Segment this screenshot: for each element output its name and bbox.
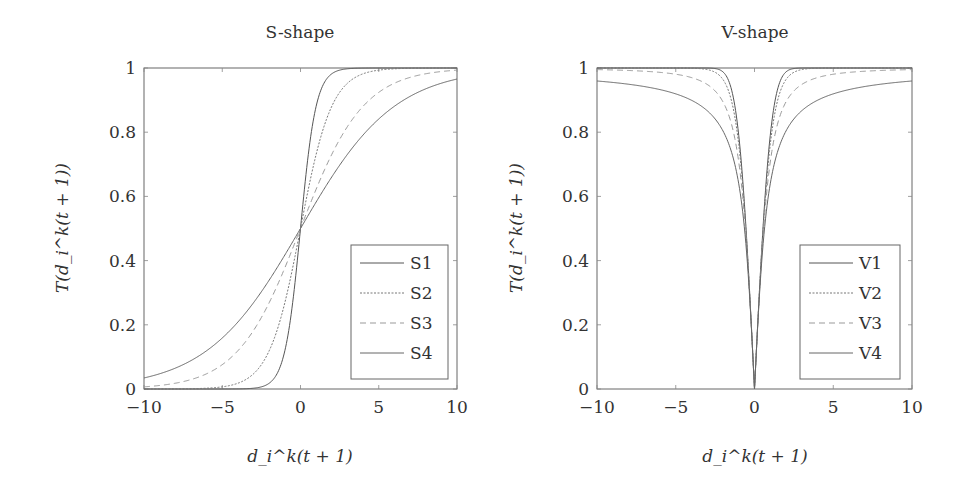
x-tick-label: 5 bbox=[828, 397, 839, 417]
svg-text:T(d_i^k(t + 1)): T(d_i^k(t + 1)) bbox=[506, 163, 526, 293]
y-tick-label: 0 bbox=[125, 379, 136, 399]
y-tick-label: 0.8 bbox=[562, 122, 589, 142]
x-tick-label: −5 bbox=[663, 397, 688, 417]
x-tick-label: 0 bbox=[295, 397, 306, 417]
s-legend: S1S2S3S4 bbox=[351, 245, 448, 379]
y-tick-label: 0.8 bbox=[109, 122, 136, 142]
legend-label-v4: V4 bbox=[858, 343, 882, 363]
y-tick-label: 0.6 bbox=[109, 186, 136, 206]
v-y-axis-label: T(d_i^k(t + 1)) bbox=[506, 163, 526, 293]
v-legend: V1V2V3V4 bbox=[800, 245, 900, 379]
s-y-axis-label: T(d_i^k(t + 1)) bbox=[52, 163, 72, 293]
v-shape-title: V-shape bbox=[720, 22, 788, 42]
x-tick-label: −10 bbox=[126, 397, 162, 417]
y-tick-label: 0.6 bbox=[562, 186, 589, 206]
s-shape-title: S-shape bbox=[266, 22, 335, 42]
figure-svg: S-shape −10−5051000.20.40.60.81 T(d_i^k(… bbox=[0, 0, 963, 487]
x-tick-label: −10 bbox=[579, 397, 615, 417]
s-shape-panel: S-shape −10−5051000.20.40.60.81 T(d_i^k(… bbox=[52, 22, 468, 466]
svg-text:T(d_i^k(t + 1)): T(d_i^k(t + 1)) bbox=[52, 163, 72, 293]
y-tick-label: 1 bbox=[125, 58, 136, 78]
y-tick-label: 1 bbox=[578, 58, 589, 78]
legend-label-v2: V2 bbox=[858, 283, 882, 303]
x-tick-label: 0 bbox=[749, 397, 760, 417]
legend-label-v1: V1 bbox=[858, 253, 882, 273]
y-tick-label: 0 bbox=[578, 379, 589, 399]
x-tick-label: −5 bbox=[210, 397, 235, 417]
legend-label-s1: S1 bbox=[410, 253, 432, 273]
v-shape-panel: V-shape −10−5051000.20.40.60.81 T(d_i^k(… bbox=[506, 22, 923, 466]
figure: S-shape −10−5051000.20.40.60.81 T(d_i^k(… bbox=[0, 0, 963, 487]
y-tick-label: 0.4 bbox=[562, 251, 589, 271]
x-tick-label: 10 bbox=[446, 397, 468, 417]
y-tick-label: 0.4 bbox=[109, 251, 136, 271]
legend-label-s2: S2 bbox=[410, 283, 432, 303]
y-tick-label: 0.2 bbox=[562, 315, 589, 335]
legend-label-v3: V3 bbox=[858, 313, 882, 333]
x-tick-label: 5 bbox=[373, 397, 384, 417]
s-legend-box bbox=[351, 245, 448, 379]
x-tick-label: 10 bbox=[901, 397, 923, 417]
s-x-axis-label: d_i^k(t + 1) bbox=[247, 446, 352, 466]
legend-label-s3: S3 bbox=[410, 313, 432, 333]
v-legend-box bbox=[800, 245, 900, 379]
v-x-axis-label: d_i^k(t + 1) bbox=[702, 446, 807, 466]
legend-label-s4: S4 bbox=[410, 343, 432, 363]
y-tick-label: 0.2 bbox=[109, 315, 136, 335]
